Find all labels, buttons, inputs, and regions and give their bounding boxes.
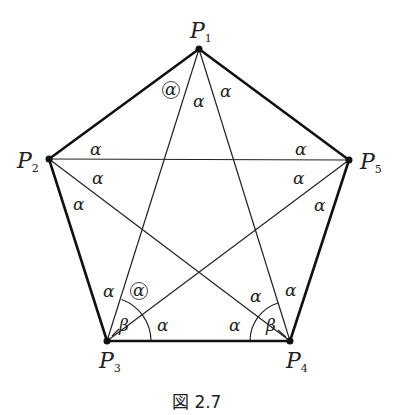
alpha-label: α bbox=[285, 280, 297, 300]
vertex-p2 bbox=[46, 156, 53, 163]
alpha-label: α bbox=[193, 91, 205, 111]
alpha-label: α bbox=[73, 194, 85, 214]
diagonal-p1-p4 bbox=[199, 49, 290, 341]
vertex-label-p1: P1 bbox=[189, 18, 212, 45]
diagonal-p2-p4 bbox=[49, 159, 290, 341]
vertex-p3 bbox=[104, 338, 111, 345]
vertex-p1 bbox=[196, 46, 203, 53]
edge-p5-p1 bbox=[199, 49, 349, 160]
alpha-label: α bbox=[293, 168, 305, 188]
alpha-label: α bbox=[165, 79, 177, 99]
diagonal-p1-p3 bbox=[107, 49, 199, 341]
alpha-label: α bbox=[103, 281, 115, 301]
alpha-label: α bbox=[295, 139, 307, 159]
alpha-label: α bbox=[220, 81, 232, 101]
pentagon-diagram: P1 P2 P3 P4 P5 α α α α α α α α α α α β α… bbox=[0, 0, 402, 415]
edge-p1-p2 bbox=[49, 49, 199, 159]
figure-caption: 図 2.7 bbox=[172, 392, 221, 412]
alpha-label: α bbox=[314, 195, 326, 215]
alpha-label: α bbox=[133, 280, 145, 300]
diagonal-p3-p5 bbox=[107, 160, 349, 341]
vertex-label-p4: P4 bbox=[285, 348, 308, 375]
vertex-p4 bbox=[287, 338, 294, 345]
vertex-label-p2: P2 bbox=[16, 148, 39, 175]
alpha-label: α bbox=[90, 139, 102, 159]
vertex-p5 bbox=[346, 157, 353, 164]
vertex-label-p3: P3 bbox=[98, 348, 121, 375]
alpha-label: α bbox=[229, 315, 241, 335]
alpha-label: α bbox=[250, 286, 262, 306]
alpha-label: α bbox=[92, 168, 104, 188]
diagonal-p2-p5 bbox=[49, 159, 349, 160]
beta-label: β bbox=[118, 315, 129, 335]
alpha-label: α bbox=[157, 315, 169, 335]
beta-label: β bbox=[265, 315, 276, 335]
vertex-label-p5: P5 bbox=[359, 149, 382, 176]
